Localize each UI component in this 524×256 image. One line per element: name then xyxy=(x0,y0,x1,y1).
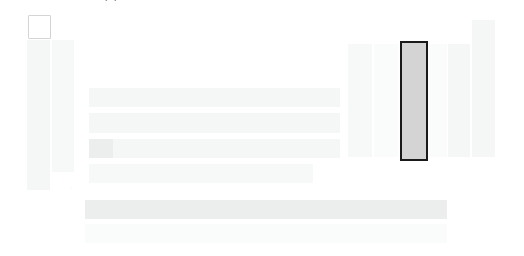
right-column-3-selected[interactable] xyxy=(400,41,428,161)
left-bar-2[interactable] xyxy=(52,40,74,172)
app-root: ◡ · xyxy=(0,0,524,256)
table-row[interactable] xyxy=(89,113,340,133)
table-row[interactable] xyxy=(89,139,340,158)
right-column-5[interactable] xyxy=(448,44,470,157)
row-leading-cell[interactable] xyxy=(89,139,113,158)
table-row[interactable] xyxy=(89,164,313,183)
right-column-4[interactable] xyxy=(430,44,447,157)
clipped-glyph-icon: ◡ xyxy=(105,0,123,1)
footer-bar-2[interactable] xyxy=(85,224,447,243)
right-column-6[interactable] xyxy=(472,20,495,157)
right-column-1[interactable] xyxy=(348,44,372,157)
right-column-2[interactable] xyxy=(374,44,398,157)
select-all-checkbox[interactable] xyxy=(28,15,51,39)
footer-marker: · xyxy=(70,185,72,191)
table-row[interactable] xyxy=(89,88,340,107)
footer-bar-1[interactable] xyxy=(85,200,447,219)
left-bar-1[interactable] xyxy=(27,40,50,190)
